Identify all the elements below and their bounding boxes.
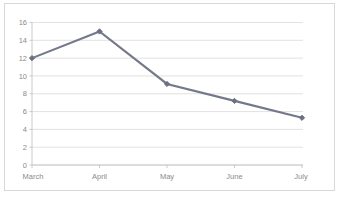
data-point-june [232, 98, 237, 103]
y-tick-label-16: 16 [19, 18, 27, 27]
line-chart: 0246810121416 MarchAprilMayJuneJuly [5, 4, 334, 190]
y-axis-tick-labels: 0246810121416 [19, 18, 32, 170]
series-line-0 [32, 31, 302, 117]
y-tick-label-2: 2 [23, 143, 27, 152]
x-category-label-july: July [294, 172, 308, 181]
chart-frame: 0246810121416 MarchAprilMayJuneJuly [4, 3, 335, 191]
x-axis-category-labels: MarchAprilMayJuneJuly [23, 172, 308, 181]
y-tick-label-10: 10 [19, 72, 27, 81]
y-tick-label-8: 8 [23, 89, 27, 98]
y-tick-label-12: 12 [19, 54, 27, 63]
data-series-group [32, 31, 302, 117]
data-point-july [299, 115, 304, 120]
y-tick-label-6: 6 [23, 107, 27, 116]
x-category-label-may: May [160, 172, 174, 181]
y-tick-label-14: 14 [19, 36, 27, 45]
y-tick-label-4: 4 [23, 125, 27, 134]
x-category-label-march: March [23, 172, 44, 181]
x-category-label-june: June [226, 172, 242, 181]
gridlines-group [32, 23, 303, 166]
y-tick-label-0: 0 [23, 161, 27, 170]
x-category-label-april: April [92, 172, 107, 181]
